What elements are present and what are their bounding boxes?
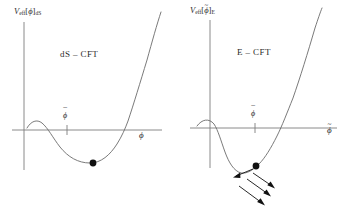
ball-marker-left — [90, 160, 97, 167]
x-axis-label-left: ϕ — [139, 131, 144, 140]
panel-title-e-cft: E – CFT — [237, 48, 271, 57]
phi-glyph-xaxis-right: ϕ — [327, 125, 332, 135]
phi-bar-glyph-left: ¯ϕ — [63, 112, 67, 120]
panel-e-cft-plot — [177, 0, 353, 215]
effective-potential-figure: Veff[ϕ]dS dS – CFT ¯ϕ ϕ — [0, 0, 353, 215]
y-axis-label-right: Veff[~ϕ]E — [190, 6, 215, 16]
ball-marker-right — [253, 163, 260, 170]
phi-tilde-glyph-xaxis-right: ~ϕ — [327, 126, 332, 135]
decay-arrow-2 — [247, 179, 271, 197]
y-axis-label-tag-left: dS — [35, 10, 41, 16]
y-axis-label-left: Veff[ϕ]dS — [14, 7, 41, 17]
potential-curve-left — [27, 12, 161, 163]
potential-curve-right — [197, 8, 322, 173]
panel-title-ds-cft: dS – CFT — [60, 50, 98, 59]
panel-ds-cft-plot — [0, 0, 177, 215]
tick-label-phibar-right: ¯ϕ — [251, 110, 255, 118]
y-axis-label-field-right: ϕ — [204, 5, 208, 15]
x-axis-label-right: ~ϕ — [327, 126, 332, 135]
y-axis-label-tag-right: E — [211, 9, 214, 15]
phi-bar-glyph-right: ¯ϕ — [251, 110, 255, 118]
phi-glyph-tick-right: ϕ — [251, 109, 255, 118]
panel-e-cft: Veff[~ϕ]E E – CFT ¯ϕ ~ϕ — [177, 0, 353, 215]
tick-label-phibar-left: ¯ϕ — [63, 112, 67, 120]
phi-tilde-glyph-ylabel-right: ~ϕ — [204, 6, 208, 15]
phi-glyph-left: ϕ — [63, 111, 67, 120]
panel-ds-cft: Veff[ϕ]dS dS – CFT ¯ϕ ϕ — [0, 0, 177, 215]
